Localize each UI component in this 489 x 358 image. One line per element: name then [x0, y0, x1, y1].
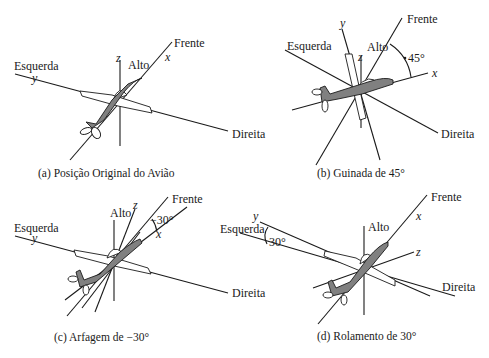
- panel-b: Esquerda y z Alto Frente 45° x Direita (…: [285, 12, 475, 180]
- caption-b: (b) Guinada de 45°: [317, 167, 405, 180]
- label-alto: Alto: [367, 40, 388, 54]
- airplane-icon: [68, 239, 151, 295]
- angle-arrowhead: [404, 57, 407, 60]
- label-alto: Alto: [110, 206, 131, 220]
- label-x-axis: x: [155, 227, 162, 241]
- caption-c: (c) Arfagem de −30°: [54, 331, 149, 344]
- label-direita: Direita: [441, 127, 475, 141]
- label-angle: 45°: [408, 51, 425, 65]
- label-y-axis: y: [31, 71, 38, 85]
- label-z-axis: z: [132, 198, 138, 212]
- label-angle: 30°: [269, 235, 286, 249]
- label-angle: −30°: [150, 213, 174, 227]
- label-z-axis: z: [415, 245, 421, 259]
- label-x-axis: x: [415, 209, 422, 223]
- label-z-axis: z: [357, 50, 363, 64]
- airplane-icon: [312, 54, 393, 120]
- label-y-axis: y: [339, 16, 346, 30]
- label-x-axis: x: [164, 50, 171, 64]
- panel-a: Esquerda y Frente x z Alto Direita (a) P…: [14, 36, 266, 180]
- label-frente: Frente: [174, 36, 205, 50]
- label-x-axis: x: [431, 66, 438, 80]
- label-frente: Frente: [431, 190, 462, 204]
- label-alto: Alto: [128, 58, 149, 72]
- label-frente: Frente: [407, 12, 438, 26]
- caption-d: (d) Rolamento de 30°: [317, 330, 417, 343]
- label-z-axis: z: [115, 51, 121, 65]
- airplane-icon: [323, 242, 395, 305]
- airplane-orientation-figure: Esquerda y Frente x z Alto Direita (a) P…: [0, 0, 489, 358]
- label-direita: Direita: [232, 286, 266, 300]
- panel-d: y Esquerda 30° Alto x Frente z Direita (…: [220, 190, 476, 343]
- label-frente: Frente: [172, 192, 203, 206]
- label-y-axis: y: [252, 209, 259, 223]
- label-esquerda: Esquerda: [220, 222, 265, 236]
- airplane-icon: [79, 78, 152, 140]
- label-direita: Direita: [442, 280, 476, 294]
- label-y-axis: y: [31, 231, 38, 245]
- label-direita: Direita: [232, 127, 266, 141]
- caption-a: (a) Posição Original do Avião: [38, 167, 175, 180]
- label-alto: Alto: [368, 220, 389, 234]
- label-esquerda: Esquerda: [287, 39, 332, 53]
- panel-c: Esquerda y Alto z Frente −30° x Direita …: [14, 192, 266, 344]
